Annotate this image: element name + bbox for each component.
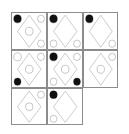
matrix-grid	[11, 12, 118, 125]
filled-circle-icon	[85, 14, 92, 22]
open-circle-icon	[50, 40, 57, 47]
filled-circle-icon	[49, 52, 57, 60]
open-circle-icon	[97, 65, 104, 73]
open-circle-icon	[108, 40, 115, 47]
open-circle-icon	[108, 53, 115, 60]
cell-graphic	[48, 13, 83, 50]
cell-graphic	[48, 51, 83, 88]
open-circle-icon	[37, 91, 44, 98]
matrix-cell[interactable]	[47, 88, 84, 126]
cell-graphic	[84, 13, 118, 50]
open-circle-icon	[37, 40, 44, 47]
cell-graphic	[12, 89, 47, 125]
matrix-cell[interactable]	[83, 12, 119, 51]
open-circle-icon	[13, 52, 21, 60]
filled-circle-icon	[14, 78, 21, 85]
filled-circle-icon	[49, 90, 57, 98]
matrix-cell[interactable]	[11, 88, 48, 126]
open-circle-icon	[37, 53, 44, 60]
filled-circle-icon	[49, 14, 57, 22]
matrix-cell[interactable]	[11, 50, 48, 89]
matrix-puzzle-canvas	[0, 0, 129, 134]
matrix-cell[interactable]	[83, 50, 119, 89]
cell-graphic	[84, 51, 118, 88]
open-circle-icon	[73, 40, 80, 47]
open-circle-icon	[25, 27, 33, 35]
filled-circle-icon	[13, 14, 21, 22]
open-circle-icon	[73, 53, 80, 60]
filled-circle-icon	[73, 78, 80, 85]
open-circle-icon	[37, 15, 44, 22]
open-circle-icon	[50, 115, 57, 122]
matrix-cell[interactable]	[11, 12, 48, 51]
matrix-cell[interactable]	[47, 50, 84, 89]
open-circle-icon	[50, 78, 57, 85]
open-circle-icon	[25, 65, 33, 73]
cell-graphic	[12, 51, 47, 88]
matrix-cell-blank[interactable]	[83, 88, 119, 126]
open-circle-icon	[61, 65, 69, 73]
cell-graphic	[48, 89, 83, 125]
matrix-cell[interactable]	[47, 12, 84, 51]
open-circle-icon	[25, 102, 33, 110]
cell-graphic	[12, 13, 47, 50]
